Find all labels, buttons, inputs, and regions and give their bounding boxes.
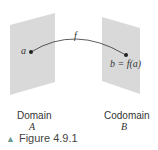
domain-set: A — [29, 121, 35, 132]
point-a — [29, 50, 33, 54]
domain-panel — [10, 13, 55, 95]
point-a-label: a — [21, 45, 26, 56]
codomain-set: B — [121, 121, 127, 132]
codomain-title: Codomain — [104, 110, 150, 121]
point-b — [124, 53, 128, 57]
triangle-marker-icon: ▲ — [6, 134, 15, 144]
domain-title: Domain — [17, 110, 51, 121]
figure-caption: ▲Figure 4.9.1 — [6, 132, 78, 144]
function-label: f — [74, 30, 77, 41]
caption-text: Figure 4.9.1 — [19, 132, 78, 144]
mapping-diagram — [0, 0, 158, 150]
point-b-label: b = f(a) — [110, 58, 141, 69]
codomain-panel — [102, 17, 140, 94]
